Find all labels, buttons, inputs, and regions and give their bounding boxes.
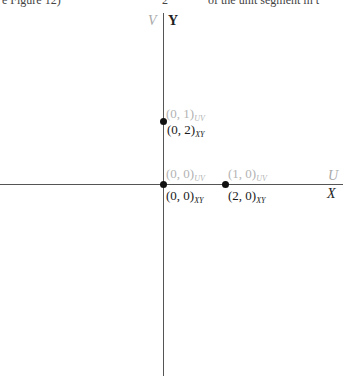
header-fragment-right: of the unit segment in t [208,0,319,8]
origin-xy-label: (0, 0)XY [166,189,204,207]
vertical-axis [163,13,164,376]
point-xy-label: (2, 0)XY [228,189,266,207]
point-xy-label: (0, 2)XY [167,123,205,141]
origin-uv-label: (0, 0)UV [166,167,205,185]
header-fragment-left: e Figure 12) [2,0,61,8]
axis-label-x: X [327,187,336,201]
axis-label-y: Y [168,14,178,28]
point-uv-label: (1, 0)UV [228,167,267,185]
axis-label-u: U [328,169,338,183]
header-fragment-middle: 2 [162,0,168,8]
axis-label-v: V [148,14,157,28]
